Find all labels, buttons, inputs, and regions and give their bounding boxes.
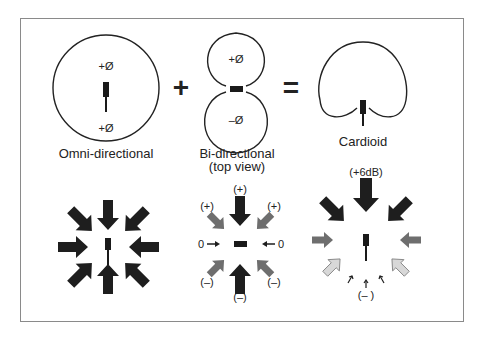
cardioid-label-bottom: (– ) — [358, 289, 375, 301]
arrow-icon — [353, 178, 379, 212]
arrow-icon — [320, 253, 346, 279]
bi-label-right: 0 — [278, 238, 284, 250]
bi-label-bottom-right: (–) — [267, 276, 280, 288]
mic-capsule-icon — [103, 82, 109, 97]
arrow-icon — [204, 209, 230, 235]
bi-label-bottom-left: (–) — [200, 276, 213, 288]
arrow-icon — [63, 255, 100, 292]
cardioid-label-top: (+6dB) — [349, 166, 382, 178]
arrow-icon — [315, 192, 352, 229]
bidirectional-top-phase: +Ø — [229, 53, 244, 65]
mic-capsule-icon — [360, 100, 366, 114]
arrow-icon — [251, 209, 277, 235]
arrow-icon — [380, 192, 417, 229]
arrow-icon — [400, 232, 421, 248]
plus-operator: + — [173, 74, 189, 102]
cardioid-arrows — [312, 178, 421, 288]
bidirectional-subcaption: (top view) — [209, 160, 265, 174]
bi-label-top-right: (+) — [267, 200, 281, 212]
bidirectional-bottom-phase: –Ø — [229, 114, 244, 126]
arrow-icon — [97, 264, 119, 294]
mic-capsule-icon — [363, 234, 369, 246]
arrow-icon — [229, 264, 251, 294]
arrow-icon — [97, 200, 119, 230]
arrow-icon — [312, 232, 333, 248]
omni-top-phase: +Ø — [99, 60, 114, 72]
arrow-icon — [63, 202, 100, 239]
arrow-icon — [229, 196, 251, 226]
omni-bottom-phase: +Ø — [99, 122, 114, 134]
arrow-icon — [129, 236, 159, 258]
arrow-icon — [117, 255, 154, 292]
cardioid-caption: Cardioid — [339, 135, 387, 149]
omni-arrows — [58, 200, 159, 294]
mic-capsule-icon — [105, 238, 111, 250]
equals-operator: = — [283, 74, 299, 102]
bidirectional-pattern — [205, 33, 268, 153]
mic-capsule-icon — [234, 241, 247, 247]
mic-capsule-icon — [230, 86, 243, 92]
arrow-icon — [386, 253, 412, 279]
arrow-icon — [58, 236, 88, 258]
omni-caption: Omni-directional — [59, 147, 154, 161]
bi-label-top: (+) — [233, 183, 247, 195]
bi-label-left: 0 — [198, 238, 204, 250]
bi-label-top-left: (+) — [200, 200, 214, 212]
arrow-icon — [262, 241, 267, 247]
cardioid-pattern — [319, 42, 407, 126]
arrow-icon — [215, 241, 220, 247]
bi-label-bottom: (–) — [233, 291, 246, 303]
arrow-icon — [117, 202, 154, 239]
